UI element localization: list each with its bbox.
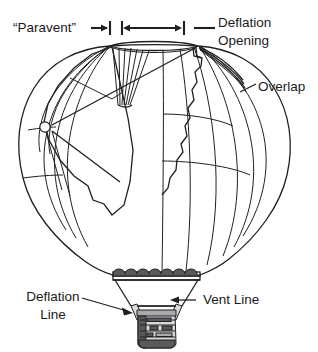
label-deflation-line-line1: Deflation bbox=[22, 289, 84, 304]
deflation-line-leader bbox=[82, 298, 133, 316]
vent-line-leader bbox=[170, 297, 196, 304]
label-deflation-opening-line2: Opening bbox=[218, 33, 269, 48]
paravent-leader bbox=[91, 21, 110, 35]
label-deflation-opening-line1: Deflation bbox=[218, 15, 271, 30]
deflation-line-cord bbox=[46, 47, 197, 196]
overlap-convergence bbox=[199, 47, 246, 92]
label-deflation-line-line2: Line bbox=[22, 307, 84, 322]
envelope-mouth-scallops bbox=[113, 269, 200, 280]
label-overlap: Overlap bbox=[258, 79, 305, 94]
balloon-diagram: “Paravent” Deflation Opening Overlap Def… bbox=[0, 0, 318, 352]
label-paravent: “Paravent” bbox=[13, 20, 76, 35]
envelope-throat bbox=[115, 280, 198, 306]
wicker-basket bbox=[137, 310, 176, 348]
deflation-opening-dimension-arrow bbox=[122, 21, 184, 35]
label-vent-line: Vent Line bbox=[203, 292, 259, 307]
deflation-opening-rim bbox=[110, 42, 198, 53]
overlap-edge bbox=[162, 48, 202, 195]
deflation-line-pulley-ring bbox=[40, 122, 50, 132]
